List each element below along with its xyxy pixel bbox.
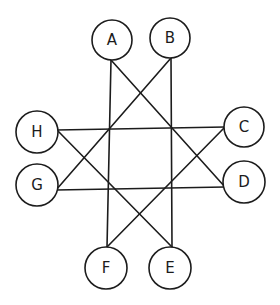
node-label: B [165, 29, 175, 47]
edge-a-f [107, 60, 111, 247]
node-b: B [150, 18, 190, 58]
node-label: C [239, 118, 249, 136]
edges-group [56, 58, 225, 247]
edge-h-c [57, 127, 225, 130]
nodes-group: ABCDEFGH [16, 18, 265, 289]
node-g: G [16, 164, 58, 206]
node-label: D [238, 173, 250, 191]
edge-b-e [171, 58, 172, 247]
edge-b-g [56, 58, 171, 190]
graph-diagram: ABCDEFGH [0, 0, 280, 305]
node-a: A [92, 20, 132, 60]
node-label: E [165, 259, 174, 277]
node-label: A [107, 31, 118, 49]
node-f: F [85, 247, 127, 289]
node-c: C [224, 107, 264, 147]
node-label: H [31, 123, 42, 141]
node-label: F [102, 259, 111, 277]
node-e: E [149, 247, 191, 289]
node-d: D [223, 161, 265, 203]
edge-g-d [56, 187, 225, 190]
node-h: H [16, 111, 58, 153]
node-label: G [31, 176, 43, 194]
edge-a-d [111, 60, 225, 187]
